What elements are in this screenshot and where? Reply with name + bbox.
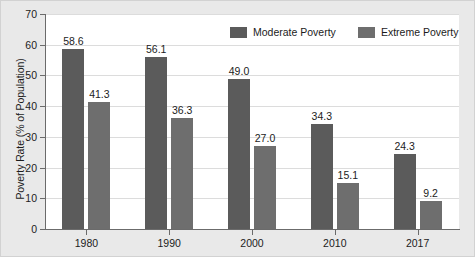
x-tick-mark [86, 230, 87, 235]
bar-1980-extreme[interactable] [88, 102, 110, 229]
legend-label-extreme: Extreme Poverty [381, 26, 459, 38]
x-tick-label-1980: 1980 [75, 237, 98, 249]
bar-value-label: 36.3 [172, 104, 192, 116]
bar-value-label: 15.1 [338, 169, 358, 181]
bar-value-label: 24.3 [394, 140, 414, 152]
x-tick-mark [335, 230, 336, 235]
gridline [45, 45, 459, 46]
x-tick-label-2010: 2010 [323, 237, 346, 249]
x-tick-label-1990: 1990 [158, 237, 181, 249]
bar-1990-moderate[interactable] [145, 57, 167, 229]
x-tick-mark [169, 230, 170, 235]
bar-value-label: 34.3 [312, 110, 332, 122]
bar-2017-extreme[interactable] [420, 201, 442, 229]
y-tick-label: 0 [11, 223, 37, 235]
bar-value-label: 49.0 [229, 65, 249, 77]
y-tick-mark [40, 168, 45, 169]
bar-1990-extreme[interactable] [171, 118, 193, 229]
y-tick-mark [40, 75, 45, 76]
y-tick-mark [40, 137, 45, 138]
moderate-swatch-icon [230, 27, 247, 38]
y-tick-label: 10 [11, 192, 37, 204]
gridline [45, 75, 459, 76]
y-tick-mark [40, 45, 45, 46]
plot-area: Moderate Poverty Extreme Poverty [45, 14, 459, 229]
bar-1980-moderate[interactable] [62, 49, 84, 229]
bar-2000-extreme[interactable] [254, 146, 276, 229]
y-tick-mark [40, 106, 45, 107]
y-axis-line [45, 14, 46, 230]
legend-item-moderate[interactable]: Moderate Poverty [230, 26, 336, 38]
chart-legend: Moderate Poverty Extreme Poverty [230, 26, 458, 38]
x-tick-label-2017: 2017 [406, 237, 429, 249]
y-tick-mark [40, 229, 45, 230]
y-tick-label: 20 [11, 162, 37, 174]
y-tick-label: 50 [11, 69, 37, 81]
y-tick-mark [40, 198, 45, 199]
bar-chart-figure: Poverty Rate (% of Population) Moderate … [0, 0, 475, 257]
legend-label-moderate: Moderate Poverty [253, 26, 336, 38]
bar-value-label: 27.0 [255, 132, 275, 144]
y-tick-label: 70 [11, 8, 37, 20]
legend-item-extreme[interactable]: Extreme Poverty [358, 26, 459, 38]
bar-value-label: 9.2 [423, 187, 438, 199]
x-tick-mark [252, 230, 253, 235]
x-tick-label-2000: 2000 [240, 237, 263, 249]
y-tick-mark [40, 14, 45, 15]
bar-2010-moderate[interactable] [311, 124, 333, 229]
extreme-swatch-icon [358, 27, 375, 38]
bar-value-label: 58.6 [63, 35, 83, 47]
gridline [45, 14, 459, 15]
bar-2017-moderate[interactable] [394, 154, 416, 229]
bar-value-label: 56.1 [146, 43, 166, 55]
y-tick-label: 30 [11, 131, 37, 143]
bar-2010-extreme[interactable] [337, 183, 359, 229]
y-tick-label: 60 [11, 39, 37, 51]
bar-value-label: 41.3 [89, 88, 109, 100]
x-tick-mark [418, 230, 419, 235]
y-tick-label: 40 [11, 100, 37, 112]
bar-2000-moderate[interactable] [228, 79, 250, 230]
